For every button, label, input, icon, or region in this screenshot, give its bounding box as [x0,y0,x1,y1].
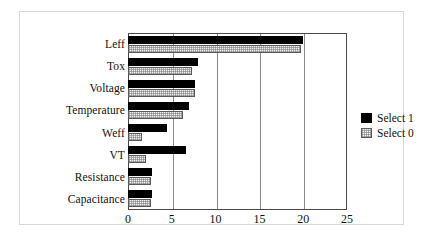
x-tick-15: 15 [253,212,265,227]
bar-temperature-select-1 [128,102,189,110]
y-axis-label-vt: VT [109,144,125,166]
legend-label: Select 1 [377,112,414,124]
chart-legend: Select 1Select 0 [361,112,414,139]
x-tick-20: 20 [297,212,309,227]
bar-voltage-select-1 [128,80,195,88]
bar-group [128,166,347,188]
bar-weff-select-0 [128,133,142,141]
y-axis-label-capacitance: Capacitance [68,188,125,210]
bar-vt-select-1 [128,146,186,154]
bar-group [128,188,347,210]
bar-group [128,99,347,121]
x-tick-5: 5 [169,212,175,227]
bar-vt-select-0 [128,155,146,163]
bar-capacitance-select-1 [128,190,152,198]
legend-item-select-0[interactable]: Select 0 [361,127,414,139]
chart-outer-frame: LeffToxVoltageTemperatureWeffVTResistanc… [19,11,404,225]
bar-temperature-select-0 [128,111,183,119]
y-axis-label-leff: Leff [105,33,125,55]
y-axis-category-labels: LeffToxVoltageTemperatureWeffVTResistanc… [20,33,126,210]
bar-group [128,33,347,55]
bar-resistance-select-0 [128,177,151,185]
bar-leff-select-0 [128,45,301,53]
bar-leff-select-1 [128,36,303,44]
chart-screenshot: LeffToxVoltageTemperatureWeffVTResistanc… [0,0,424,238]
y-axis-label-voltage: Voltage [89,77,125,99]
bar-group [128,122,347,144]
y-axis-label-weff: Weff [102,122,125,144]
bar-group [128,144,347,166]
bar-weff-select-1 [128,124,167,132]
bar-group [128,77,347,99]
y-axis-label-resistance: Resistance [75,166,125,188]
x-tick-0: 0 [125,212,131,227]
legend-label: Select 0 [377,127,414,139]
x-tick-25: 25 [341,212,353,227]
black-filled-swatch [361,113,372,123]
legend-item-select-1[interactable]: Select 1 [361,112,414,124]
bar-group [128,55,347,77]
bar-voltage-select-0 [128,89,195,97]
light-hatched-swatch [361,128,372,138]
y-axis-label-temperature: Temperature [66,99,125,121]
x-axis-tick-labels: 0510152025 [128,212,347,230]
x-tick-10: 10 [210,212,222,227]
bar-capacitance-select-0 [128,199,151,207]
bar-groups [128,33,347,210]
bar-tox-select-1 [128,58,198,66]
y-axis-label-tox: Tox [107,55,125,77]
bar-resistance-select-1 [128,168,152,176]
bar-tox-select-0 [128,67,192,75]
